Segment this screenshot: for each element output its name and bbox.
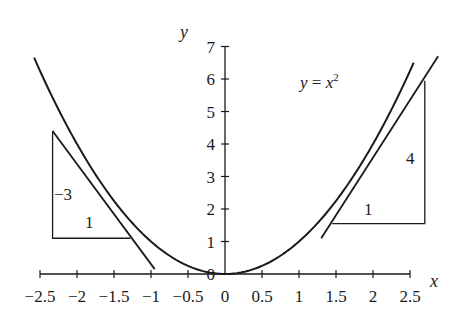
right-run-label: 1 (364, 200, 373, 219)
x-tick-label: −0.5 (173, 287, 204, 306)
x-tick-label: 2.5 (399, 287, 420, 306)
x-tick-label: 1 (295, 287, 304, 306)
parabola-plot: −2.5−2−1.5−1−0.500.511.522.501234567 y x… (0, 0, 455, 328)
equation-equals: = (308, 73, 326, 92)
series (34, 56, 438, 274)
y-tick-label: 7 (207, 38, 216, 57)
x-tick-label: −2 (68, 287, 86, 306)
x-tick-label: 0 (221, 287, 230, 306)
x-tick-label: −2.5 (25, 287, 56, 306)
x-axis-label: x (429, 271, 438, 291)
tick-labels: −2.5−2−1.5−1−0.500.511.522.501234567 (25, 38, 421, 307)
equation-label: y = x2 (298, 71, 339, 92)
equation-exponent: 2 (333, 71, 339, 83)
equation-y: y (298, 73, 308, 92)
y-tick-label: 4 (207, 135, 216, 154)
y-tick-label: 3 (207, 168, 216, 187)
x-tick-label: −1.5 (99, 287, 130, 306)
x-tick-label: 2 (369, 287, 378, 306)
axes (40, 47, 410, 275)
y-axis-label: y (178, 22, 188, 42)
y-tick-label: 0 (207, 265, 216, 284)
x-tick-label: 0.5 (251, 287, 272, 306)
tangent-line (321, 56, 438, 238)
left-rise-label: −3 (54, 185, 72, 204)
chart-container: −2.5−2−1.5−1−0.500.511.522.501234567 y x… (0, 0, 455, 328)
y-tick-label: 6 (207, 70, 216, 89)
y-tick-label: 5 (207, 103, 216, 122)
left-run-label: 1 (85, 213, 94, 232)
right-rise-label: 4 (406, 149, 415, 168)
x-tick-label: 1.5 (325, 287, 346, 306)
x-tick-label: −1 (142, 287, 160, 306)
y-tick-label: 1 (207, 233, 216, 252)
y-tick-label: 2 (207, 200, 216, 219)
